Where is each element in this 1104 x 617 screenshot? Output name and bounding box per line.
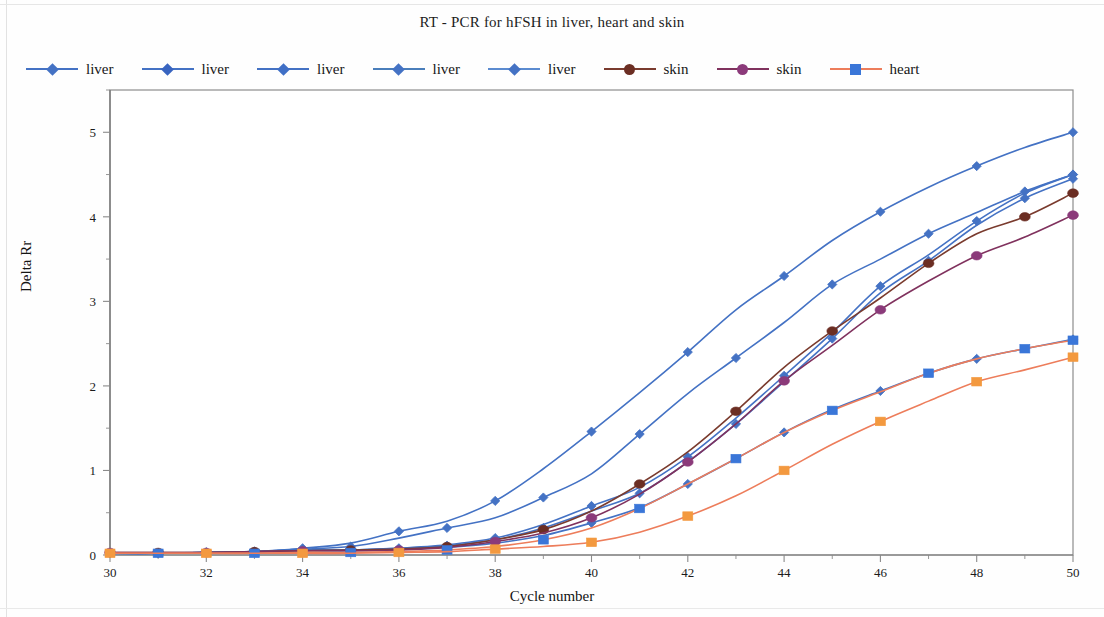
marker-square-icon bbox=[1068, 336, 1078, 345]
marker-square-icon bbox=[827, 406, 837, 415]
marker-square-icon bbox=[1068, 353, 1078, 362]
marker-circle-icon bbox=[586, 514, 597, 523]
x-tick-label: 46 bbox=[874, 565, 888, 580]
marker-circle-icon bbox=[971, 251, 982, 260]
marker-square-icon bbox=[635, 504, 645, 513]
x-tick-label: 34 bbox=[296, 565, 310, 580]
x-tick-label: 30 bbox=[104, 565, 117, 580]
marker-square-icon bbox=[538, 535, 548, 544]
marker-square-icon bbox=[731, 454, 741, 463]
y-tick-label: 1 bbox=[90, 463, 97, 478]
y-tick-label: 4 bbox=[90, 210, 97, 225]
plot-svg: 0123453032343638404244464850 bbox=[0, 0, 1104, 617]
marker-square-icon bbox=[587, 538, 597, 547]
y-tick-label: 5 bbox=[90, 125, 97, 140]
marker-square-icon bbox=[875, 417, 885, 426]
marker-circle-icon bbox=[827, 327, 838, 336]
marker-square-icon bbox=[779, 466, 789, 475]
marker-square-icon bbox=[442, 546, 452, 555]
marker-circle-icon bbox=[634, 480, 645, 489]
marker-circle-icon bbox=[1068, 189, 1079, 198]
x-tick-label: 50 bbox=[1067, 565, 1080, 580]
chart-page: RT - PCR for hFSH in liver, heart and sk… bbox=[0, 0, 1104, 617]
marker-square-icon bbox=[394, 548, 404, 557]
x-tick-label: 44 bbox=[778, 565, 792, 580]
x-tick-label: 36 bbox=[392, 565, 406, 580]
x-tick-label: 32 bbox=[200, 565, 213, 580]
marker-square-icon bbox=[105, 549, 115, 558]
x-tick-label: 40 bbox=[585, 565, 598, 580]
x-tick-label: 38 bbox=[489, 565, 502, 580]
marker-square-icon bbox=[298, 549, 308, 558]
marker-circle-icon bbox=[682, 458, 693, 467]
marker-circle-icon bbox=[731, 407, 742, 416]
y-tick-label: 3 bbox=[90, 294, 97, 309]
marker-circle-icon bbox=[779, 377, 790, 386]
marker-circle-icon bbox=[923, 259, 934, 268]
marker-square-icon bbox=[201, 549, 211, 558]
y-tick-label: 0 bbox=[90, 548, 97, 563]
y-axis-title: Delta Rr bbox=[18, 241, 35, 292]
plot-border bbox=[110, 90, 1073, 555]
y-tick-label: 2 bbox=[90, 379, 97, 394]
x-tick-label: 48 bbox=[970, 565, 983, 580]
marker-square-icon bbox=[972, 377, 982, 386]
marker-circle-icon bbox=[1068, 211, 1079, 220]
marker-square-icon bbox=[683, 512, 693, 521]
marker-circle-icon bbox=[1019, 213, 1030, 222]
marker-square-icon bbox=[490, 545, 500, 554]
x-axis-title: Cycle number bbox=[0, 588, 1104, 605]
plot-area-wrapper: 0123453032343638404244464850 Delta Rr Cy… bbox=[0, 0, 1104, 617]
x-tick-label: 42 bbox=[681, 565, 694, 580]
marker-square-icon bbox=[1020, 344, 1030, 353]
marker-square-icon bbox=[924, 369, 934, 378]
marker-circle-icon bbox=[875, 306, 886, 315]
